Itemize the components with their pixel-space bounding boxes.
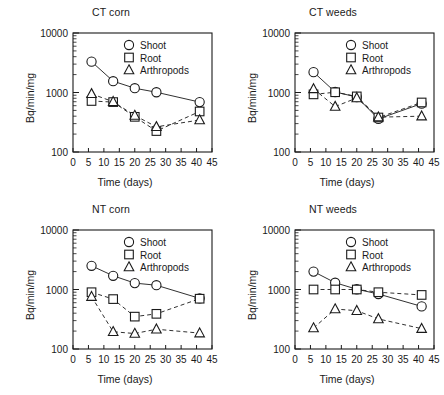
data-point-circle xyxy=(195,97,204,106)
x-tick-label: 5 xyxy=(86,157,92,168)
x-tick-label: 15 xyxy=(336,157,348,168)
panel-nt-corn: NT cornBq/min/mgTime (days)0510152025303… xyxy=(0,197,222,394)
x-tick-label: 30 xyxy=(160,354,172,365)
data-point-square xyxy=(125,53,134,62)
data-point-circle xyxy=(346,40,355,49)
legend-label-shoot: Shoot xyxy=(362,237,388,248)
data-point-square xyxy=(374,288,383,297)
data-point-circle xyxy=(417,302,426,311)
x-tick-label: 15 xyxy=(114,354,126,365)
x-tick-label: 40 xyxy=(191,157,203,168)
x-tick-label: 25 xyxy=(367,157,379,168)
series-line-arthropods xyxy=(92,297,200,334)
data-point-triangle xyxy=(330,101,340,110)
y-tick-label: 10000 xyxy=(262,28,290,39)
data-point-circle xyxy=(87,57,96,66)
data-point-circle xyxy=(109,77,118,86)
y-tick-label: 1000 xyxy=(46,88,69,99)
x-tick-label: 35 xyxy=(176,354,188,365)
legend-label-arthropods: Arthropods xyxy=(362,262,411,273)
legend-label-shoot: Shoot xyxy=(140,40,166,51)
x-tick-label: 10 xyxy=(320,354,332,365)
y-tick-label: 100 xyxy=(273,147,290,158)
data-point-square xyxy=(352,285,361,294)
data-point-circle xyxy=(124,40,133,49)
data-point-triangle xyxy=(87,89,97,98)
x-tick-label: 20 xyxy=(351,157,363,168)
x-tick-label: 45 xyxy=(206,157,218,168)
data-point-circle xyxy=(152,88,161,97)
x-tick-label: 0 xyxy=(292,354,298,365)
y-tick-label: 100 xyxy=(51,344,68,355)
data-point-square xyxy=(331,88,340,97)
data-point-triangle xyxy=(108,327,118,336)
data-point-triangle xyxy=(124,65,134,74)
y-tick-label: 100 xyxy=(273,344,290,355)
x-tick-label: 30 xyxy=(382,354,394,365)
y-tick-label: 1000 xyxy=(46,285,69,296)
legend-label-arthropods: Arthropods xyxy=(362,65,411,76)
data-point-triangle xyxy=(374,314,384,323)
data-point-triangle xyxy=(152,324,162,333)
data-point-square xyxy=(309,285,318,294)
data-point-circle xyxy=(109,271,118,280)
y-tick-label: 10000 xyxy=(40,28,68,39)
data-point-triangle xyxy=(309,84,319,93)
x-tick-label: 30 xyxy=(160,157,172,168)
x-tick-label: 0 xyxy=(292,157,298,168)
series-line-root xyxy=(314,92,422,117)
figure-canvas: CT cornBq/min/mgTime (days)0510152025303… xyxy=(0,0,444,395)
y-tick-label: 1000 xyxy=(268,285,291,296)
x-tick-label: 10 xyxy=(98,157,110,168)
data-point-circle xyxy=(346,237,355,246)
x-tick-label: 20 xyxy=(129,354,141,365)
data-point-circle xyxy=(124,237,133,246)
data-point-triangle xyxy=(352,306,362,315)
x-tick-label: 5 xyxy=(86,354,92,365)
x-tick-label: 40 xyxy=(413,354,425,365)
panel-nt-weeds: NT weedsBq/min/mgTime (days)051015202530… xyxy=(222,197,444,394)
x-tick-label: 45 xyxy=(428,157,440,168)
x-tick-label: 0 xyxy=(70,354,76,365)
x-tick-label: 15 xyxy=(114,157,126,168)
data-point-circle xyxy=(309,68,318,77)
legend-label-root: Root xyxy=(362,250,383,261)
data-point-square xyxy=(195,294,204,303)
data-point-triangle xyxy=(152,122,162,131)
x-tick-label: 25 xyxy=(145,354,157,365)
x-tick-label: 35 xyxy=(398,157,410,168)
series-line-shoot xyxy=(314,72,422,119)
y-tick-label: 10000 xyxy=(40,225,68,236)
plot-area: 051015202530354045100100010000ShootRootA… xyxy=(0,0,222,197)
x-tick-label: 15 xyxy=(336,354,348,365)
panel-ct-weeds: CT weedsBq/min/mgTime (days)051015202530… xyxy=(222,0,444,197)
x-tick-label: 25 xyxy=(145,157,157,168)
legend-label-root: Root xyxy=(140,250,161,261)
plot-area: 051015202530354045100100010000ShootRootA… xyxy=(222,197,444,394)
data-point-square xyxy=(331,285,340,294)
y-tick-label: 100 xyxy=(51,147,68,158)
y-tick-label: 10000 xyxy=(262,225,290,236)
data-point-triangle xyxy=(330,304,340,313)
x-tick-label: 10 xyxy=(98,354,110,365)
series-line-shoot xyxy=(314,272,422,307)
data-point-square xyxy=(417,98,426,107)
legend-label-arthropods: Arthropods xyxy=(140,65,189,76)
data-point-triangle xyxy=(309,323,319,332)
data-point-circle xyxy=(152,281,161,290)
data-point-circle xyxy=(87,261,96,270)
data-point-triangle xyxy=(195,328,205,337)
legend-label-root: Root xyxy=(140,53,161,64)
data-point-triangle xyxy=(124,262,134,271)
series-line-arthropods xyxy=(314,309,422,329)
legend-label-shoot: Shoot xyxy=(362,40,388,51)
data-point-square xyxy=(152,310,161,319)
legend-label-arthropods: Arthropods xyxy=(140,262,189,273)
series-line-root xyxy=(314,290,422,295)
x-tick-label: 20 xyxy=(351,354,363,365)
data-point-square xyxy=(347,250,356,259)
x-tick-label: 20 xyxy=(129,157,141,168)
series-line-root xyxy=(92,292,200,316)
x-tick-label: 35 xyxy=(176,157,188,168)
panel-ct-corn: CT cornBq/min/mgTime (days)0510152025303… xyxy=(0,0,222,197)
